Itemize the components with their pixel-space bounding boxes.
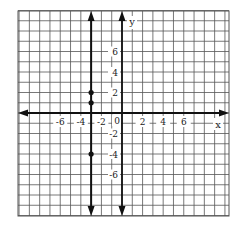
x-tick-label: -4 bbox=[76, 117, 85, 127]
coordinate-plane: -6-4-2246642-2-4-60xy bbox=[0, 0, 243, 231]
y-axis-down-arrow-icon bbox=[119, 206, 126, 216]
y-tick-label: -6 bbox=[109, 170, 118, 180]
x-tick-label: 6 bbox=[181, 117, 187, 127]
x-axis-label: x bbox=[215, 119, 221, 130]
x-tick-label: -6 bbox=[56, 117, 65, 127]
line-up-arrow-icon bbox=[88, 11, 95, 21]
y-tick-label: -4 bbox=[109, 150, 118, 160]
y-tick-label: -2 bbox=[109, 129, 118, 139]
x-tick-label: 2 bbox=[140, 117, 146, 127]
y-tick-label: 6 bbox=[112, 47, 118, 57]
tick-labels: -6-4-2246642-2-4-60xy bbox=[53, 16, 223, 180]
y-tick-label: 2 bbox=[112, 88, 118, 98]
x-tick-label: 4 bbox=[160, 117, 166, 127]
x-axis-right-arrow-icon bbox=[219, 110, 229, 117]
line-down-arrow-icon bbox=[88, 206, 95, 216]
origin-label: 0 bbox=[114, 116, 120, 126]
x-axis-left-arrow-icon bbox=[18, 110, 28, 117]
data-point bbox=[89, 151, 94, 156]
data-point bbox=[89, 90, 94, 95]
y-axis-up-arrow-icon bbox=[119, 11, 126, 21]
x-tick-label: -2 bbox=[97, 117, 106, 127]
y-tick-label: 4 bbox=[112, 68, 118, 78]
data-point bbox=[89, 100, 94, 105]
y-axis-label: y bbox=[128, 16, 135, 27]
